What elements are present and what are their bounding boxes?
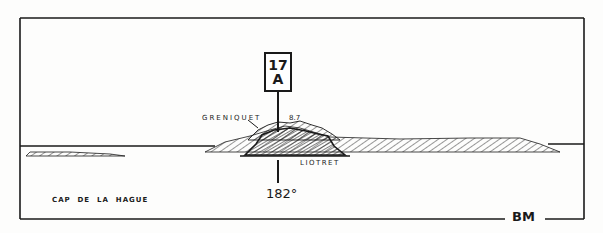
label-greniquet: GRENIQUET (202, 114, 261, 122)
beacon-letter: A (273, 72, 284, 86)
label-liotret: LIOTRET (300, 159, 340, 167)
label-bearing: 182° (266, 186, 297, 201)
beacon-sign: 17 A (264, 52, 292, 92)
label-height: 8.7 (289, 114, 300, 122)
beacon-number: 17 (268, 58, 287, 72)
sketch-canvas: 17 A GRENIQUET 8.7 LIOTRET 182° CAP DE L… (0, 0, 603, 233)
distant-land-left (26, 152, 125, 156)
signature: BM (512, 209, 535, 224)
frame (20, 18, 584, 219)
label-cap-de-la-hague: CAP DE LA HAGUE (52, 196, 148, 204)
